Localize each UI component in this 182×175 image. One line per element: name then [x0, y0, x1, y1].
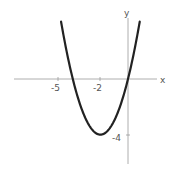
parabola-graph: x y -5 -2 -4	[0, 0, 182, 175]
tick-label-neg4: -4	[112, 133, 121, 143]
x-axis-label: x	[160, 75, 166, 85]
tick-label-neg5: -5	[51, 83, 60, 93]
tick-label-neg2: -2	[93, 83, 102, 93]
y-axis-label: y	[124, 8, 130, 18]
